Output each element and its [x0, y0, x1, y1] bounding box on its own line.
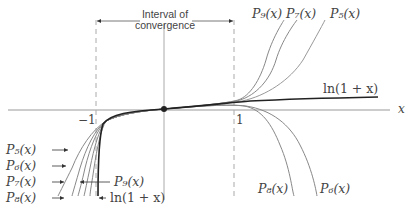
- label-right-ln: ln(1 + x): [323, 81, 378, 96]
- tick-label-pos1: 1: [236, 113, 244, 127]
- curve-p5-right: [164, 20, 325, 109]
- curve-p7-right: [164, 20, 297, 109]
- label-top-p5: P₅(x): [329, 6, 360, 21]
- origin-point: [161, 106, 167, 112]
- label-left-p5: P₅(x): [5, 142, 36, 157]
- label-left-p6: P₆(x): [5, 158, 36, 173]
- label-bottom-p8: P₈(x): [257, 181, 288, 196]
- label-top-p9: P₉(x): [251, 6, 282, 21]
- label-left-ln: ln(1 + x): [110, 190, 165, 205]
- tick-label-neg1: −1: [78, 113, 96, 127]
- x-axis-label: x: [398, 102, 405, 116]
- taylor-diagram: x Interval of convergence −1 1 P₉(x) P₇(…: [0, 0, 411, 209]
- label-left-p8: P₈(x): [5, 190, 36, 205]
- curve-p5-left: [58, 109, 164, 196]
- interval-label-line2: convergence: [135, 19, 195, 31]
- label-bottom-p6: P₆(x): [319, 181, 350, 196]
- curve-p9-right: [164, 20, 284, 109]
- label-left-p9: P₉(x): [113, 174, 144, 189]
- label-top-p7: P₇(x): [285, 6, 316, 21]
- label-left-p7: P₇(x): [5, 174, 36, 189]
